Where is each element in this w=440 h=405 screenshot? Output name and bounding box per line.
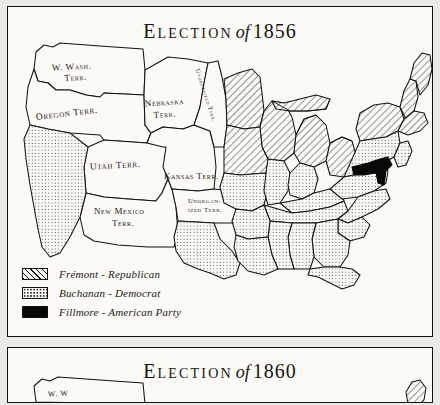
region-1860-northeast-hatch xyxy=(406,380,426,403)
region-michigan xyxy=(294,115,330,167)
label-1860-w-wash-terr: W. W xyxy=(48,388,69,398)
legend-item-fillmore: Fillmore - American Party xyxy=(22,303,181,320)
legend-label-buchanan: Buchanan - Democrat xyxy=(59,287,161,299)
map-1860: W. W xyxy=(8,348,432,402)
legend-label-fremont: Frémont - Republican xyxy=(59,268,160,280)
legend-swatch-solid-icon xyxy=(22,306,48,318)
election-1856-panel: Electionof1856 xyxy=(7,6,433,337)
legend-item-buchanan: Buchanan - Democrat xyxy=(22,284,181,301)
region-texas xyxy=(174,221,240,279)
legend-label-fillmore: Fillmore - American Party xyxy=(59,306,181,318)
label-kansas-terr: Kansas Terr. xyxy=(164,171,219,181)
election-1860-panel: Electionof1860 W. W xyxy=(7,347,433,403)
region-minnesota xyxy=(224,69,264,129)
region-illinois xyxy=(264,159,290,205)
legend-swatch-hatch-icon xyxy=(22,268,48,280)
region-michigan-upper xyxy=(272,95,330,111)
legend-swatch-stipple-icon xyxy=(22,287,48,299)
legend-item-fremont: Frémont - Republican xyxy=(22,265,181,282)
map-page: Electionof1856 xyxy=(0,0,440,405)
map-legend: Frémont - Republican Buchanan - Democrat… xyxy=(22,265,181,322)
region-florida xyxy=(308,267,360,289)
region-california xyxy=(24,125,88,257)
us-map-1860-svg: W. W xyxy=(8,348,433,403)
